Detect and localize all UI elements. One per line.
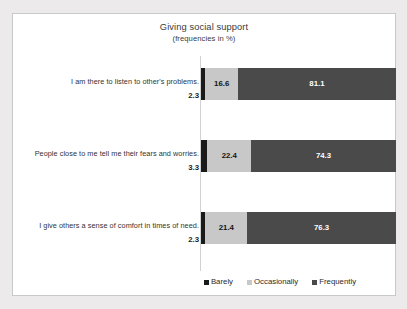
bar-segment-frequently[interactable]: 76.3 [247,212,396,244]
legend-label: Barely [211,277,233,287]
segment-value-frequently: 74.3 [316,151,331,161]
bar-row: I am there to listen to other's problems… [13,62,397,130]
plot-area: I am there to listen to other's problems… [13,56,397,271]
chart-subtitle: (frequencies in %) [13,33,395,44]
stacked-bar[interactable]: 21.4 76.3 [201,212,396,244]
legend-item-frequently[interactable]: Frequently [312,277,356,287]
bar-row: I give others a sense of comfort in time… [13,206,397,274]
legend-swatch-icon [247,280,252,285]
chart-container: Giving social support (frequencies in %)… [12,13,396,296]
bar-segment-frequently[interactable]: 81.1 [238,68,396,100]
chart-legend: Barely Occasionally Frequently [13,277,397,287]
category-label: People close to me tell me their fears a… [19,149,199,159]
segment-value-frequently: 76.3 [314,223,329,233]
bar-segment-frequently[interactable]: 74.3 [251,140,396,172]
segment-value-occasionally: 21.4 [219,223,234,233]
legend-swatch-icon [312,280,317,285]
bar-segment-occasionally[interactable]: 16.6 [205,68,237,100]
segment-value-occasionally: 16.6 [214,79,229,89]
bar-segment-occasionally[interactable]: 21.4 [205,212,247,244]
category-label: I am there to listen to other's problems… [19,77,199,87]
legend-label: Frequently [319,277,356,287]
legend-item-barely[interactable]: Barely [204,277,233,287]
bar-row: People close to me tell me their fears a… [13,134,397,202]
legend-swatch-icon [204,280,209,285]
stacked-bar[interactable]: 16.6 81.1 [201,68,396,100]
stacked-bar[interactable]: 22.4 74.3 [201,140,396,172]
barely-value-outside: 3.3 [19,163,199,173]
bar-segment-occasionally[interactable]: 22.4 [207,140,251,172]
segment-value-frequently: 81.1 [309,79,324,89]
barely-value-outside: 2.3 [19,235,199,245]
legend-label: Occasionally [254,277,298,287]
legend-item-occasionally[interactable]: Occasionally [247,277,298,287]
segment-value-occasionally: 22.4 [222,151,237,161]
chart-title-block: Giving social support (frequencies in %) [13,21,395,44]
chart-title: Giving social support [13,21,395,33]
category-label: I give others a sense of comfort in time… [19,221,199,231]
barely-value-outside: 2.3 [19,91,199,101]
